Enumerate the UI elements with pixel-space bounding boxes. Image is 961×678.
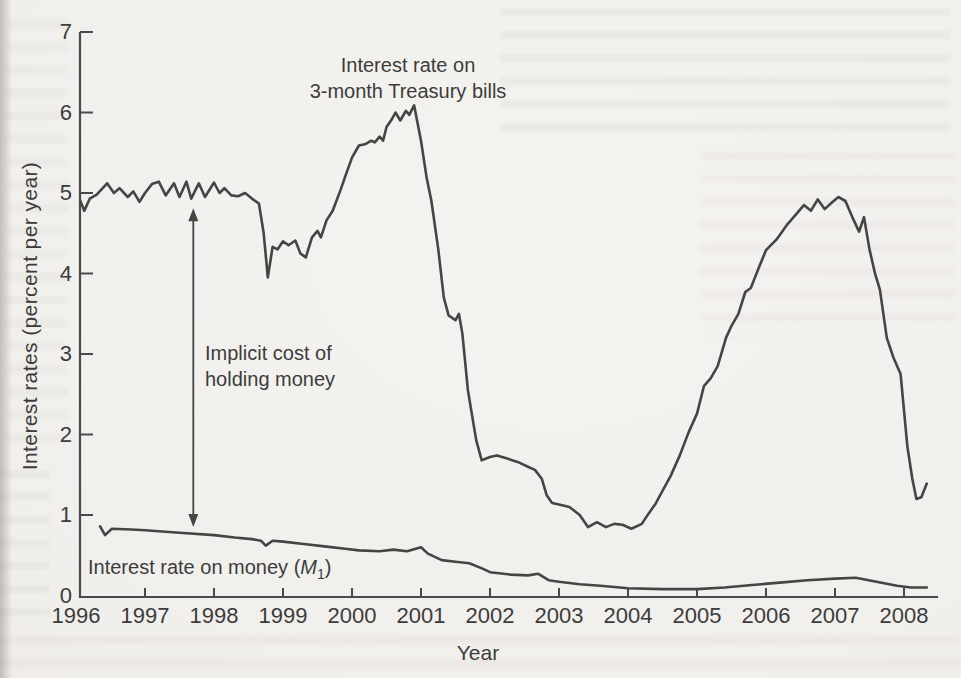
m1-label-suffix: )	[325, 556, 332, 578]
treasury-line	[80, 105, 927, 528]
x-tick-label: 2006	[731, 603, 801, 629]
treasury-series-label-line2: 3-month Treasury bills	[310, 78, 507, 104]
m1-series-label: Interest rate on money (M1)	[88, 556, 331, 582]
x-tick-label: 1996	[41, 603, 111, 629]
y-tick-label: 7	[36, 19, 72, 45]
x-tick-label: 2001	[386, 603, 456, 629]
m1-label-symbol: M	[300, 556, 317, 578]
y-tick-label: 3	[36, 341, 72, 367]
x-tick-label: 2005	[662, 603, 732, 629]
x-axis-title: Year	[457, 641, 499, 665]
arrowhead-down	[188, 514, 198, 527]
arrowhead-up	[188, 208, 198, 221]
x-tick-label: 2008	[869, 603, 939, 629]
axes	[80, 32, 938, 597]
y-tick-label: 2	[36, 422, 72, 448]
x-tick-label: 2003	[524, 603, 594, 629]
m1-label-subscript: 1	[317, 566, 325, 582]
x-tick-label: 1997	[110, 603, 180, 629]
y-tick-label: 1	[36, 502, 72, 528]
x-tick-label: 2007	[800, 603, 870, 629]
x-tick-label: 1999	[248, 603, 318, 629]
y-tick-label: 6	[36, 100, 72, 126]
y-tick-label: 4	[36, 261, 72, 287]
y-tick-label: 5	[36, 180, 72, 206]
x-tick-label: 2002	[455, 603, 525, 629]
implicit-cost-line2: holding money	[205, 366, 335, 392]
implicit-cost-line1: Implicit cost of	[205, 340, 335, 366]
m1-label-prefix: Interest rate on money (	[88, 556, 300, 578]
x-tick-label: 1998	[179, 603, 249, 629]
treasury-series-label: Interest rate on 3-month Treasury bills	[310, 52, 507, 104]
implicit-cost-annotation: Implicit cost of holding money	[205, 340, 335, 392]
figure: Interest rates (percent per year) Intere…	[0, 0, 961, 678]
x-tick-label: 2004	[593, 603, 663, 629]
scanned-page: Interest rates (percent per year) Intere…	[0, 0, 961, 678]
x-tick-label: 2000	[317, 603, 387, 629]
treasury-series-label-line1: Interest rate on	[310, 52, 507, 78]
